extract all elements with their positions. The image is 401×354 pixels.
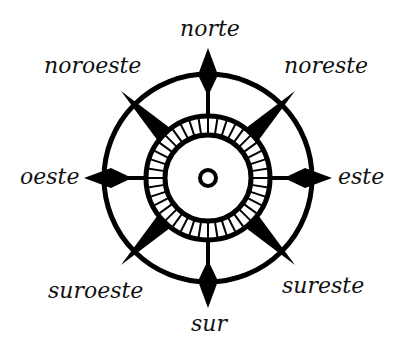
- east-arrow: [284, 168, 332, 188]
- south-arrow: [198, 260, 218, 308]
- southeast-arrow: [246, 215, 295, 265]
- center-circle: [200, 170, 216, 186]
- label-west: oeste: [20, 166, 79, 188]
- label-south: sur: [191, 313, 227, 335]
- hatched-ring-inner: [165, 135, 251, 221]
- west-arrow: [84, 168, 132, 188]
- label-northeast: noreste: [284, 55, 368, 77]
- label-northwest: noroeste: [44, 55, 141, 77]
- north-arrow: [198, 48, 218, 96]
- label-north: norte: [180, 18, 240, 40]
- label-southeast: sureste: [282, 275, 364, 297]
- southwest-arrow: [121, 215, 170, 265]
- label-southwest: suroeste: [48, 280, 143, 302]
- label-east: este: [338, 166, 384, 188]
- northwest-arrow: [121, 91, 170, 141]
- northeast-arrow: [246, 91, 295, 141]
